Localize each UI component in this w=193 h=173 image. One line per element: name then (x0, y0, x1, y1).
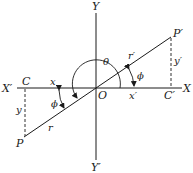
phi-left-arc (59, 90, 64, 108)
label-point-p: P (15, 137, 24, 150)
label-origin: O (98, 89, 107, 102)
label-segment-y: y (15, 104, 22, 115)
label-segment-y-prime: y′ (173, 55, 183, 66)
label-x-axis: X (182, 82, 192, 95)
label-y-axis: Y (92, 0, 101, 13)
label-segment-x-prime: x′ (129, 90, 138, 101)
label-segment-r: r (48, 122, 54, 133)
label-point-p-prime: P′ (172, 27, 183, 40)
label-angle-phi-right: ϕ (137, 70, 144, 81)
phi-right-arc (129, 69, 134, 86)
reference-angle-diagram: Y Y′ X′ X O C C′ P P′ x y r x′ y′ r′ θ ϕ… (0, 0, 193, 173)
label-angle-theta: θ (103, 56, 109, 67)
label-angle-phi-left: ϕ (51, 98, 58, 109)
label-x-prime-axis: X′ (1, 82, 13, 95)
label-point-c-prime: C′ (164, 89, 175, 102)
label-y-prime-axis: Y′ (91, 161, 101, 173)
label-segment-x: x (50, 76, 56, 87)
radius-line-pp-prime (24, 37, 171, 137)
label-point-c: C (22, 75, 31, 88)
label-segment-r-prime: r′ (128, 50, 136, 61)
